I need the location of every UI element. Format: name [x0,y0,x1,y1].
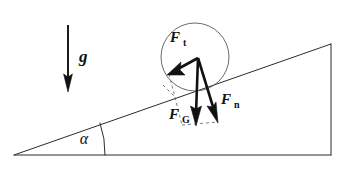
vector-f-t-head [167,62,185,75]
vector-f-g-subscript: G [182,114,190,125]
gravity-arrow [64,25,73,92]
vector-f-g-shaft [196,58,198,114]
vector-f-n-label: F [220,91,231,107]
slope-surface-line [14,44,331,155]
vector-f-n-subscript: n [234,99,240,110]
vector-f-g-label-group: F G [168,106,190,125]
gravity-label: g [78,47,88,66]
angle-alpha-marker [100,123,105,155]
vector-f-t-label-group: F t [169,29,187,48]
dashed-slope-tick [163,85,176,98]
vector-f-g-head [191,106,202,126]
vector-f-t-label: F [169,29,180,45]
angle-arc [100,123,105,155]
vector-f-n-label-group: F n [220,91,240,110]
inclined-plane-triangle [14,44,331,155]
diagram-canvas: α g F t F G [0,0,344,169]
vector-f-t-subscript: t [183,37,187,48]
vector-f-t [167,58,198,75]
angle-alpha-label: α [80,130,89,147]
gravity-arrow-head [64,74,73,92]
vector-f-n-shaft [198,58,214,110]
vector-f-g-label: F [168,106,179,122]
physics-diagram-inclined-plane: α g F t F G [0,0,344,169]
